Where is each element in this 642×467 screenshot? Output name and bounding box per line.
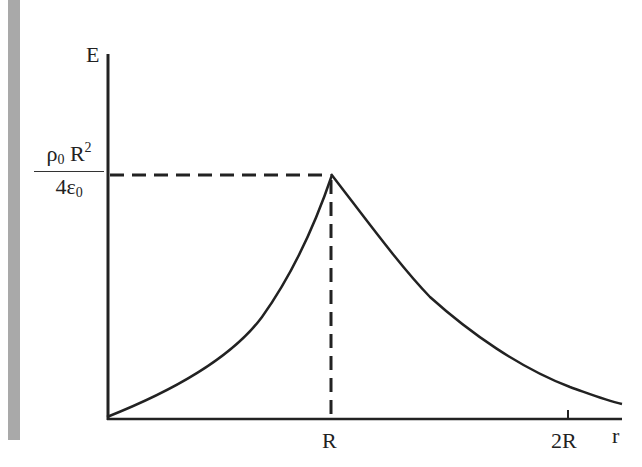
x-tick-label-R: R	[322, 430, 337, 452]
x-axis-label: r	[612, 425, 619, 447]
x-tick-label-2R: 2R	[551, 430, 577, 452]
peak-denominator: 4ε0	[34, 172, 104, 201]
curve-inside	[107, 175, 332, 417]
peak-numerator: ρ0 R2	[34, 140, 104, 172]
curve-outside	[331, 174, 622, 404]
field-plot	[0, 0, 642, 467]
y-axis-label: E	[86, 44, 99, 66]
peak-value-label: ρ0 R2 4ε0	[34, 140, 104, 201]
